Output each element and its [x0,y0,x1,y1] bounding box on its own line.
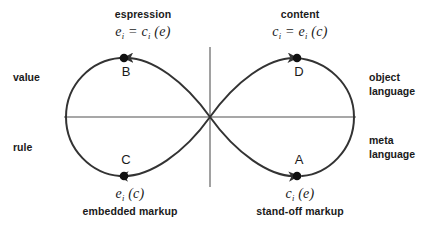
formula-top-left-lhs-sub: i [122,31,124,41]
side-label-rule: rule [13,141,32,155]
formula-top-left-rhs-sub: i [148,31,150,41]
formula-top-left-lhs-var: e [115,24,122,39]
right-loop-upper-segment [210,58,296,117]
lemniscate-diagram [0,0,427,225]
formula-bottom-right-sub: i [292,193,294,203]
formula-bottom-left-sub: i [122,193,124,203]
formula-top-left-arg: (e) [154,24,170,39]
formula-top-right-rhs-sub: i [305,31,307,41]
caption-espression: espression [115,8,171,21]
formula-top-left: ei = ci (e) [115,24,170,40]
formula-top-right-rhs-var: e [299,24,306,39]
point-label-c: C [121,152,130,167]
point-c-dot [120,172,129,181]
point-label-b: B [122,64,131,79]
formula-bottom-left: ei (c) [115,186,144,202]
caption-content: content [281,8,320,21]
formula-bottom-left-arg: (c) [128,186,144,201]
formula-top-right-lhs-sub: i [279,31,281,41]
point-d-dot [293,54,302,63]
right-loop-lower-segment [210,117,297,176]
formula-bottom-right-arg: (e) [298,186,314,201]
caption-embedded-markup: embedded markup [83,205,178,218]
left-loop-lower-segment [120,117,210,176]
formula-top-right-eq: = [285,24,295,39]
point-label-a: A [295,152,304,167]
formula-top-right-arg: (c) [311,24,327,39]
point-a-dot [293,172,302,181]
diagram-canvas: espression ei = ci (e) B content ci = ei… [0,0,427,225]
formula-bottom-right-var: c [285,186,292,201]
formula-top-right: ci = ei (c) [272,24,327,40]
caption-stand-off-markup: stand-off markup [256,205,343,218]
side-label-meta-language: meta language [369,134,415,161]
formula-top-right-lhs-var: c [272,24,279,39]
side-label-value: value [13,71,40,85]
formula-top-left-rhs-var: c [142,24,149,39]
formula-bottom-left-var: e [115,186,122,201]
formula-bottom-right: ci (e) [285,186,314,202]
formula-top-left-eq: = [128,24,138,39]
side-label-object-language: object language [369,71,415,98]
point-b-dot [120,54,129,63]
point-label-d: D [294,64,303,79]
left-loop-upper-segment [125,58,210,117]
